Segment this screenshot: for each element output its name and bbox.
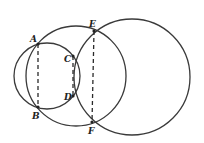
diagram-canvas: A B C D E F: [0, 0, 204, 143]
label-c: C: [64, 54, 72, 64]
label-a: A: [29, 34, 37, 44]
point-b: [36, 105, 39, 108]
large-circle: [74, 19, 190, 135]
point-e: [92, 29, 95, 32]
label-b: B: [31, 111, 40, 121]
middle-circle: [26, 26, 126, 126]
point-d: [71, 94, 74, 97]
chord-ef: [92, 31, 94, 122]
three-circles-diagram: A B C D E F: [0, 0, 204, 143]
label-e: E: [88, 19, 96, 29]
point-f: [90, 120, 93, 123]
label-d: D: [63, 92, 72, 102]
label-f: F: [87, 126, 95, 136]
point-c: [71, 54, 74, 57]
